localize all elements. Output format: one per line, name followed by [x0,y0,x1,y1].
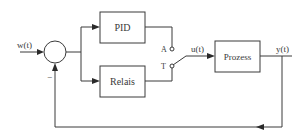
reference-arrowhead [37,49,44,55]
reference-signal-label: w(t) [17,40,32,50]
switch-contact-t-label: T [161,62,166,71]
feedback-arrowhead [256,124,264,130]
summing-junction [44,41,66,63]
block-diagram: w(t) − PID Relais A T u(t) Prozess y(t) [0,0,308,139]
relais-block-label: Relais [110,76,135,87]
control-arrowhead [207,53,215,59]
prozess-block-label: Prozess [224,52,252,62]
feedback-junction-arrowhead [52,63,58,71]
feedback-sign-label: − [47,72,52,82]
switch-lever [173,56,186,65]
switch-contact-a-label: A [161,45,167,54]
relais-output-line [145,68,172,81]
pid-block-label: PID [114,22,130,33]
pid-output-line [145,27,172,47]
switch-contact-a [170,47,174,51]
relais-input-arrowhead [92,78,100,84]
pid-input-arrowhead [92,24,100,30]
output-signal-label: y(t) [276,44,289,54]
control-signal-label: u(t) [191,44,204,54]
